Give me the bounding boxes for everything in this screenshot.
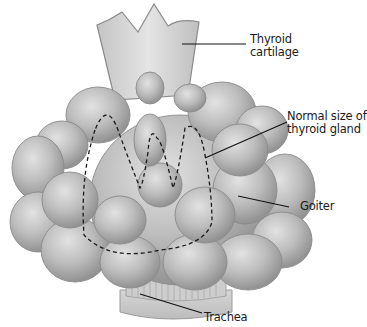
label-thyroid-cartilage-line2: cartilage: [250, 46, 299, 59]
label-goiter: Goiter: [300, 200, 334, 213]
label-trachea: Trachea: [204, 311, 247, 324]
label-thyroid-cartilage: Thyroid cartilage: [250, 33, 299, 59]
label-normal-size-line2: thyroid gland: [287, 123, 367, 136]
goiter-mass: [10, 72, 315, 290]
label-normal-size: Normal size of thyroid gland: [287, 110, 367, 136]
